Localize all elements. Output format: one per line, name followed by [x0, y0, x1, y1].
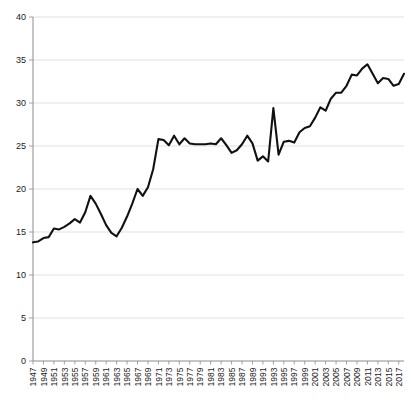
x-tick-label: 1951 — [49, 367, 59, 386]
data-line-series-1 — [33, 64, 404, 242]
x-tick-label: 1971 — [154, 367, 164, 386]
x-tick-label: 1979 — [195, 367, 205, 386]
x-tick-label: 2009 — [352, 367, 362, 386]
x-tick-label: 1961 — [101, 367, 111, 386]
x-tick-label: 1947 — [28, 367, 38, 386]
x-tick-label: 2003 — [321, 367, 331, 386]
x-tick-label: 2007 — [342, 367, 352, 386]
x-tick-label: 1999 — [300, 367, 310, 386]
x-tick-label: 1981 — [206, 367, 216, 386]
x-tick-label: 1995 — [279, 367, 289, 386]
x-tick-label: 1953 — [60, 367, 70, 386]
x-tick-label: 1973 — [164, 367, 174, 386]
x-tick-label: 1949 — [39, 367, 49, 386]
y-tick-label: 35 — [16, 55, 26, 65]
x-tick-label: 1959 — [91, 367, 101, 386]
y-tick-label: 5 — [21, 313, 26, 323]
x-tick-labels: 1947194919511953195519571959196119631965… — [28, 367, 404, 386]
x-tick-label: 1993 — [269, 367, 279, 386]
x-tick-marks — [33, 361, 399, 365]
y-tick-label: 30 — [16, 98, 26, 108]
x-tick-label: 1989 — [248, 367, 258, 386]
x-tick-label: 1985 — [227, 367, 237, 386]
x-tick-label: 1955 — [70, 367, 80, 386]
x-tick-label: 1991 — [258, 367, 268, 386]
x-tick-label: 1987 — [237, 367, 247, 386]
y-tick-label: 10 — [16, 270, 26, 280]
x-tick-label: 1977 — [185, 367, 195, 386]
x-tick-label: 2015 — [384, 367, 394, 386]
y-tick-label: 15 — [16, 227, 26, 237]
x-tick-label: 2011 — [363, 367, 373, 386]
gridlines — [29, 17, 404, 361]
x-tick-label: 2005 — [331, 367, 341, 386]
x-tick-label: 1997 — [289, 367, 299, 386]
x-tick-label: 1957 — [80, 367, 90, 386]
x-tick-label: 2013 — [373, 367, 383, 386]
x-tick-label: 1963 — [112, 367, 122, 386]
y-tick-label: 0 — [21, 356, 26, 366]
y-tick-labels: 0510152025303540 — [16, 12, 26, 366]
x-tick-label: 1969 — [143, 367, 153, 386]
chart-plot-area: 0510152025303540 19471949195119531955195… — [0, 0, 411, 411]
x-tick-label: 1983 — [216, 367, 226, 386]
x-tick-label: 1967 — [133, 367, 143, 386]
line-chart: 0510152025303540 19471949195119531955195… — [0, 0, 411, 411]
y-tick-label: 20 — [16, 184, 26, 194]
x-tick-label: 2017 — [394, 367, 404, 386]
x-tick-label: 2001 — [310, 367, 320, 386]
x-tick-label: 1965 — [122, 367, 132, 386]
x-tick-label: 1975 — [175, 367, 185, 386]
y-tick-label: 40 — [16, 12, 26, 22]
y-tick-label: 25 — [16, 141, 26, 151]
